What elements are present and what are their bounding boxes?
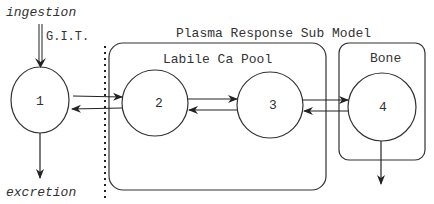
node-2-label: 2 [155,96,163,111]
arrow-2-to-1 [72,108,122,109]
git-label: G.I.T. [46,30,89,44]
compartment-diagram: ingestion G.I.T. 1 excretion Plasma Resp… [0,0,434,204]
compartment-1: 1 [11,67,69,133]
bone-label: Bone [370,51,401,66]
node-1-label: 1 [36,94,44,109]
node-3-label: 3 [269,98,277,113]
labile-pool-label: Labile Ca Pool [163,52,272,67]
compartment-3: 3 [237,72,303,138]
excretion-label: excretion [6,185,76,200]
ingestion-label: ingestion [6,5,76,20]
compartment-4: 4 [348,73,416,141]
plasma-submodel-title: Plasma Response Sub Model [176,26,371,41]
arrow-1-to-2 [73,96,122,97]
ingestion-arrow [35,24,46,68]
compartment-2: 2 [122,70,188,136]
node-4-label: 4 [379,100,387,115]
